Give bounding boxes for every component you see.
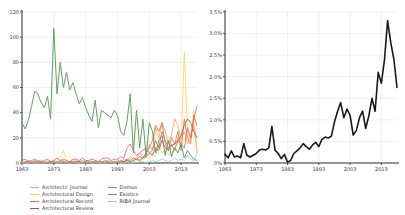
x-tick-label: 1983 bbox=[281, 166, 294, 172]
x-tick-label: 2013 bbox=[375, 166, 388, 172]
legend-label: Architectural Record bbox=[42, 198, 93, 204]
y-tick-label: 1.5% bbox=[209, 95, 222, 101]
x-tick-label: 2013 bbox=[175, 166, 188, 172]
y-tick-label: 120 bbox=[9, 9, 19, 15]
y-tick-label: 3.0% bbox=[209, 30, 222, 36]
figure: 020406080100120196319731983199320032013 … bbox=[0, 0, 405, 215]
y-tick-label: 40 bbox=[13, 109, 19, 115]
legend-swatch bbox=[108, 194, 117, 195]
y-tick-label: 2.5% bbox=[209, 52, 222, 58]
legend-item: RIBA Journal bbox=[108, 198, 151, 204]
x-tick-label: 2003 bbox=[143, 166, 156, 172]
y-tick-label: 0 bbox=[16, 160, 19, 166]
left-chart-plot: 020406080100120196319731983199320032013 bbox=[0, 0, 205, 180]
x-tick-label: 1983 bbox=[79, 166, 92, 172]
legend-item: Domus bbox=[108, 184, 151, 190]
x-tick-label: 1973 bbox=[250, 166, 263, 172]
legend-item: Architectural Design bbox=[30, 191, 94, 197]
x-tick-label: 1993 bbox=[312, 166, 325, 172]
legend-item: Architectural Review bbox=[30, 205, 94, 211]
legend-swatch bbox=[30, 194, 39, 195]
y-tick-label: 80 bbox=[13, 59, 19, 65]
legend-label: Domus bbox=[120, 184, 138, 190]
legend-swatch bbox=[30, 201, 39, 202]
y-tick-label: 0% bbox=[214, 160, 222, 166]
legend-swatch bbox=[30, 187, 39, 188]
legend-column: Architects' JournalArchitectural DesignA… bbox=[30, 184, 94, 211]
legend-label: Architects' Journal bbox=[42, 184, 87, 190]
y-tick-label: 0.5% bbox=[209, 138, 222, 144]
legend-item: Ekistics bbox=[108, 191, 151, 197]
x-tick-label: 2003 bbox=[344, 166, 357, 172]
legend-swatch bbox=[30, 208, 39, 209]
x-tick-label: 1993 bbox=[111, 166, 124, 172]
x-tick-label: 1963 bbox=[219, 166, 232, 172]
right-chart: 0%0.5%1.0%1.5%2.0%2.5%3.0%3.5%1963197319… bbox=[205, 0, 405, 215]
y-tick-label: 20 bbox=[13, 135, 19, 141]
legend-label: Architectural Review bbox=[42, 205, 94, 211]
left-chart: 020406080100120196319731983199320032013 … bbox=[0, 0, 205, 215]
legend-item: Architects' Journal bbox=[30, 184, 94, 190]
legend-label: Ekistics bbox=[120, 191, 139, 197]
right-chart-plot: 0%0.5%1.0%1.5%2.0%2.5%3.0%3.5%1963197319… bbox=[205, 0, 405, 180]
y-tick-label: 1.0% bbox=[209, 117, 222, 123]
y-tick-label: 2.0% bbox=[209, 74, 222, 80]
left-chart-legend: Architects' JournalArchitectural DesignA… bbox=[30, 184, 150, 211]
legend-label: Architectural Design bbox=[42, 191, 93, 197]
x-tick-label: 1973 bbox=[47, 166, 60, 172]
x-tick-label: 1963 bbox=[16, 166, 29, 172]
legend-label: RIBA Journal bbox=[120, 198, 151, 204]
series-line-share-of-publications bbox=[225, 21, 397, 163]
legend-column: DomusEkisticsRIBA Journal bbox=[108, 184, 151, 211]
y-tick-label: 60 bbox=[13, 84, 19, 90]
legend-swatch bbox=[108, 187, 117, 188]
y-tick-label: 3.5% bbox=[209, 9, 222, 15]
y-tick-label: 100 bbox=[9, 34, 19, 40]
legend-item: Architectural Record bbox=[30, 198, 94, 204]
series-line-architectural-record bbox=[22, 115, 197, 163]
legend-swatch bbox=[108, 201, 117, 202]
